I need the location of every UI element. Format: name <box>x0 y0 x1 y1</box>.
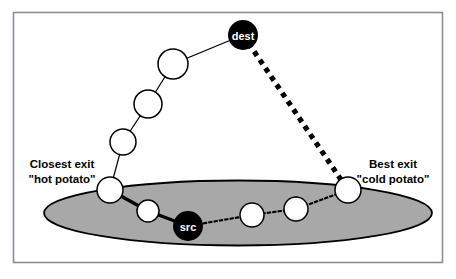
router-node-up-3 <box>110 129 136 155</box>
routing-diagram-figure: src dest Closest exit "hot potato" Best … <box>0 0 456 279</box>
dest-node-label: dest <box>232 30 255 42</box>
router-node-up-1 <box>158 49 188 79</box>
src-node-label: src <box>180 221 197 233</box>
best-exit-annotation-line2: "cold potato" <box>357 173 430 185</box>
router-node-exit-left <box>97 177 123 203</box>
router-node-in-1 <box>137 200 159 222</box>
closest-exit-annotation-line1: Closest exit <box>30 158 95 170</box>
best-exit-annotation-line1: Best exit <box>369 158 417 170</box>
router-node-up-2 <box>134 90 162 118</box>
router-node-in-3 <box>284 197 308 221</box>
router-node-in-2 <box>240 203 264 227</box>
diagram-canvas: src dest Closest exit "hot potato" Best … <box>0 0 456 279</box>
closest-exit-annotation-line2: "hot potato" <box>28 173 95 185</box>
